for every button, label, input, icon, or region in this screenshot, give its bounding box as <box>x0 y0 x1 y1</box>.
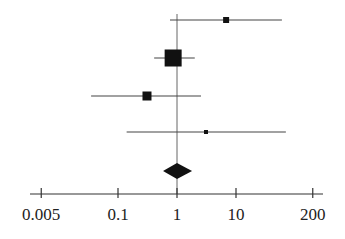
study-marker-square <box>204 130 208 134</box>
x-tick-label: 10 <box>228 205 245 225</box>
study-marker-square <box>142 92 151 101</box>
plot-area <box>0 0 345 239</box>
x-tick-label: 0.005 <box>22 205 60 225</box>
study-marker-square <box>223 17 229 23</box>
x-tick-label: 200 <box>300 205 326 225</box>
forest-plot: 0.0050.1110200 <box>0 0 345 239</box>
study-marker-square <box>165 50 182 67</box>
x-tick-label: 0.1 <box>107 205 128 225</box>
pooled-estimate-diamond <box>163 163 192 179</box>
x-tick-label: 1 <box>173 205 182 225</box>
